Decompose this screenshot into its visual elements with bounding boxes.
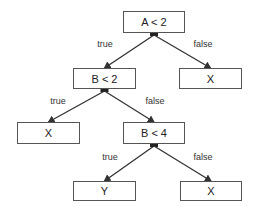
edge-label: true (102, 152, 118, 162)
tree-node: A < 2 (123, 11, 185, 33)
tree-node: X (180, 181, 242, 201)
tree-node: X (17, 122, 80, 144)
edge-label: true (50, 96, 66, 106)
tree-node: X (179, 68, 242, 89)
tree-node: Y (73, 181, 136, 201)
edge-label: false (193, 39, 212, 49)
edge-label: false (193, 152, 212, 162)
tree-node: B < 4 (123, 122, 185, 144)
edge-label: false (145, 96, 164, 106)
tree-node: B < 2 (73, 68, 136, 89)
edge-label: true (97, 39, 113, 49)
